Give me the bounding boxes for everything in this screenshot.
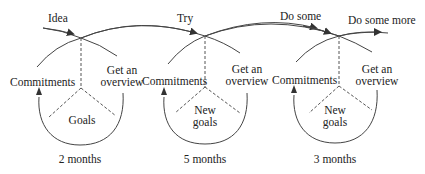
flow-label-try: Try [177, 12, 193, 24]
cycle3-goals: goals [315, 116, 355, 128]
flow-label-do-some-more: Do some more [348, 14, 416, 26]
cycle3-overview-line1: Get an [352, 63, 402, 75]
cycle2-new: New [185, 104, 225, 116]
cycle2-goals: goals [185, 116, 225, 128]
cycle1-descend [81, 38, 117, 56]
cycle1-overview-line2: overview [97, 76, 147, 88]
cycle2-overview-line1: Get an [222, 63, 272, 75]
cycle1-goals: Goals [62, 114, 102, 126]
flow-label-do-some: Do some [280, 10, 321, 22]
cycle3-new: New [315, 104, 355, 116]
cycle3-overview-line2: overview [352, 75, 402, 87]
cycle1-overview-line1: Get an [97, 64, 147, 76]
cycle3-commitments: Commitments [272, 74, 337, 86]
cycle2-commitments: Commitments [142, 75, 207, 87]
cycle2-duration: 5 months [180, 153, 230, 165]
cycle1-duration: 2 months [55, 153, 105, 165]
cycle-diagram: Idea Try Do some Do some more Commitment… [0, 0, 425, 174]
cycle1-rise [37, 38, 81, 67]
cycle2-overview-line2: overview [222, 75, 272, 87]
idea-arrow [43, 28, 81, 38]
cycle3-duration: 3 months [310, 153, 360, 165]
cycle1-commitments: Commitments [10, 76, 75, 88]
flow-label-idea: Idea [48, 12, 68, 24]
